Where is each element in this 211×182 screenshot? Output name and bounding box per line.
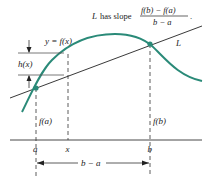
arrow-left-icon [37,161,44,166]
tick-b: b [148,144,153,154]
arrow-down-icon [27,47,32,53]
interval-label: b − a [81,158,101,168]
tick-x: x [65,144,70,154]
slope-L: L [91,11,97,21]
tick-a: a [33,144,38,154]
line-label: L [175,38,181,48]
secant-line-L [10,26,202,98]
point-fa [33,85,38,90]
arrow-up-icon [27,75,32,81]
slope-numerator: f(b) − f(a) [141,5,176,15]
slope-text: has slope [100,11,132,21]
fb-label: f(b) [153,116,166,126]
slope-period: . [190,11,192,21]
fa-label: f(a) [39,116,52,126]
point-fb [147,41,152,46]
slope-denominator: b − a [153,17,172,27]
arrow-right-icon [142,161,149,166]
curve-label: y = f(x) [44,36,72,46]
mvt-diagram: y = f(x) L h(x) f(a) f(b) a x b b − a L … [0,0,211,182]
height-label: h(x) [18,59,33,69]
